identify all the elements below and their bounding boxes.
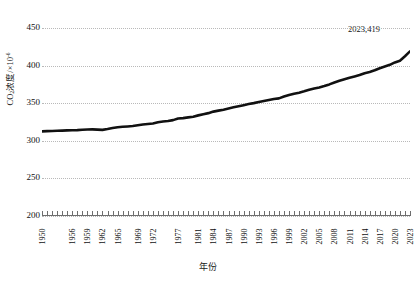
x-axis-tick: [329, 211, 330, 216]
x-axis-tick-label: 1990: [239, 220, 248, 254]
x-axis-tick: [385, 211, 386, 216]
x-axis-tick: [355, 211, 356, 216]
x-axis-tick: [213, 211, 214, 216]
x-axis-tick: [350, 211, 351, 216]
x-axis-tick: [87, 211, 88, 216]
x-axis-tick: [254, 211, 255, 216]
x-axis-tick: [102, 211, 103, 216]
x-axis-tick-label: 2014: [360, 220, 369, 254]
x-axis-tick: [208, 211, 209, 216]
x-axis-tick: [183, 211, 184, 216]
x-axis-tick-label: 1962: [98, 220, 107, 254]
x-axis-tick: [289, 211, 290, 216]
x-axis-tick-label: 1965: [113, 220, 122, 254]
x-axis-tick: [193, 211, 194, 216]
x-axis-tick: [244, 211, 245, 216]
x-axis-tick: [324, 211, 325, 216]
x-axis-tick: [198, 211, 199, 216]
x-axis-tick: [234, 211, 235, 216]
co2-concentration-line-chart: CO2浓度/×10-6 450400350300250200 2023,419 …: [0, 0, 416, 281]
x-axis-tick: [334, 211, 335, 216]
x-axis-tick: [173, 211, 174, 216]
x-axis-tick: [153, 211, 154, 216]
x-axis-tick: [42, 211, 43, 216]
x-axis-tick-label: 2002: [300, 220, 309, 254]
x-axis-tick: [97, 211, 98, 216]
x-axis-tick-label: 1987: [224, 220, 233, 254]
x-axis-tick: [133, 211, 134, 216]
x-axis-tick: [123, 211, 124, 216]
x-axis-title: 年份: [0, 260, 416, 273]
x-axis-tick: [279, 211, 280, 216]
x-axis-tick: [218, 211, 219, 216]
x-axis-tick: [178, 211, 179, 216]
x-axis-tick: [380, 211, 381, 216]
x-axis-tick-label: 1956: [68, 220, 77, 254]
x-axis-tick: [390, 211, 391, 216]
x-axis-tick: [370, 211, 371, 216]
x-axis-tick: [269, 211, 270, 216]
plot-area: [42, 28, 410, 216]
x-axis-tick: [274, 211, 275, 216]
x-axis-tick: [188, 211, 189, 216]
x-axis-tick-labels: 1950195619591962196519691972197719811984…: [42, 220, 410, 256]
x-axis-tick: [148, 211, 149, 216]
x-axis-tick: [249, 211, 250, 216]
x-axis-tick-label: 1999: [285, 220, 294, 254]
y-axis-tick-label: 400: [6, 61, 40, 70]
y-axis-tick-label: 350: [6, 98, 40, 107]
y-axis-tick-labels: 450400350300250200: [6, 0, 40, 281]
x-axis-tick-label: 1977: [174, 220, 183, 254]
x-axis-tick: [309, 211, 310, 216]
x-axis-tick-label: 1959: [83, 220, 92, 254]
x-axis-tick: [163, 211, 164, 216]
x-axis-tick-label: 1969: [133, 220, 142, 254]
x-axis-tick: [365, 211, 366, 216]
x-axis-tick-label: 2020: [390, 220, 399, 254]
x-axis-tick: [360, 211, 361, 216]
x-axis-tick: [92, 211, 93, 216]
x-axis-tick: [223, 211, 224, 216]
x-axis-tick-label: 1981: [194, 220, 203, 254]
y-axis-tick-label: 200: [6, 211, 40, 220]
x-axis-tick: [299, 211, 300, 216]
x-axis-tick: [77, 211, 78, 216]
x-axis-tick: [229, 211, 230, 216]
x-axis-tick: [284, 211, 285, 216]
x-axis-tick: [67, 211, 68, 216]
x-axis-tick-label: 2011: [345, 220, 354, 254]
x-axis-tick: [339, 211, 340, 216]
x-axis-tick: [375, 211, 376, 216]
y-axis-tick-label: 450: [6, 23, 40, 32]
x-axis-tick: [158, 211, 159, 216]
x-axis-tick: [168, 211, 169, 216]
x-axis-tick-label: 1984: [209, 220, 218, 254]
x-axis-tick: [344, 211, 345, 216]
x-axis-tick: [410, 211, 411, 216]
x-axis-tick-label: 1996: [269, 220, 278, 254]
x-axis-tick: [400, 211, 401, 216]
x-axis-tick: [62, 211, 63, 216]
x-axis-tick-label: 2008: [330, 220, 339, 254]
x-axis-tick: [203, 211, 204, 216]
x-axis-tick: [113, 211, 114, 216]
x-axis-tick: [319, 211, 320, 216]
y-axis-tick-label: 250: [6, 173, 40, 182]
x-axis-tick: [118, 211, 119, 216]
x-axis-tick: [57, 211, 58, 216]
x-axis-tick: [128, 211, 129, 216]
x-axis-tick: [47, 211, 48, 216]
x-axis-tick-label: 1993: [254, 220, 263, 254]
x-axis-tick-label: 1950: [38, 220, 47, 254]
x-axis-tick: [264, 211, 265, 216]
x-axis-tick: [52, 211, 53, 216]
x-axis-tick: [294, 211, 295, 216]
x-axis-tick: [239, 211, 240, 216]
x-axis-tick-label: 2005: [315, 220, 324, 254]
x-axis-tick: [108, 211, 109, 216]
x-axis-tick-label: 2017: [375, 220, 384, 254]
x-axis-tick: [395, 211, 396, 216]
x-axis-tick: [143, 211, 144, 216]
x-axis-tick: [304, 211, 305, 216]
x-axis-tick-label: 2023: [406, 220, 415, 254]
